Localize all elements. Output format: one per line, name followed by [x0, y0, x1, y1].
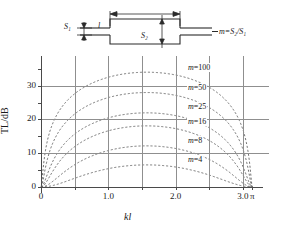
gridline-vertical — [75, 56, 76, 187]
y-tick-label: 20 — [14, 113, 36, 123]
curve-label-50: m=50 — [187, 83, 207, 92]
tl-curve-100 — [41, 72, 252, 187]
tl-curve-8 — [41, 146, 252, 187]
curve-label-100: m=100 — [187, 63, 211, 72]
y-tick-mark — [38, 86, 42, 87]
x-tick-label: π — [237, 191, 267, 201]
y-tick-mark — [38, 119, 42, 120]
y-tick-label: 10 — [14, 147, 36, 157]
gridline-vertical — [243, 56, 244, 187]
y-tick-mark — [38, 69, 42, 70]
y-axis-title: TL/dB — [0, 107, 10, 134]
y-tick-mark — [38, 153, 42, 154]
gridline-vertical — [176, 56, 177, 187]
gridline-horizontal — [41, 86, 269, 87]
y-tick-mark — [38, 103, 42, 104]
x-tick-mark — [176, 187, 177, 190]
y-tick-label: 0 — [14, 181, 36, 191]
dimension-inlet-area — [77, 22, 92, 41]
x-tick-label: 0 — [26, 191, 56, 201]
x-tick-mark — [142, 187, 143, 190]
gridline-vertical — [142, 56, 143, 187]
x-tick-label: 1.0 — [93, 191, 123, 201]
dimension-chamber-area — [160, 15, 165, 48]
figure-root: l S₁ S₂ m=S₂/S₁ TL/dB kl 01.02.03.0π0102… — [0, 0, 288, 227]
gridline-horizontal — [41, 153, 269, 154]
curve-label-4: m=4 — [187, 155, 203, 164]
curve-label-16: m=16 — [187, 117, 207, 126]
gridline-horizontal — [41, 119, 269, 120]
curve-label-8: m=8 — [187, 136, 203, 145]
y-tick-mark — [38, 136, 42, 137]
expansion-chamber-schematic: l S₁ S₂ m=S₂/S₁ — [62, 4, 252, 56]
x-tick-mark — [243, 187, 244, 190]
chamber-area-label: S₂ — [141, 31, 148, 40]
curve-label-25: m=25 — [187, 102, 207, 111]
y-tick-label: 30 — [14, 80, 36, 90]
x-tick-label: 2.0 — [161, 191, 191, 201]
length-dimension-label: l — [98, 21, 100, 30]
plot-area: 01.02.03.0π0102030 m=100m=50m=25m=16m=8m… — [41, 62, 248, 187]
area-ratio-formula: m=S₂/S₁ — [219, 27, 246, 36]
x-tick-mark — [108, 187, 109, 190]
y-tick-mark — [38, 170, 42, 171]
gridline-vertical — [108, 56, 109, 187]
x-tick-mark — [209, 187, 210, 190]
inlet-area-label: S₁ — [64, 22, 71, 31]
tl-curve-50 — [41, 93, 252, 187]
tl-curve-25 — [41, 113, 252, 187]
tl-curve-16 — [41, 126, 252, 187]
gridline-vertical — [209, 56, 210, 187]
x-tick-mark — [252, 187, 253, 190]
tl-curve-4 — [41, 165, 252, 187]
x-axis-title: kl — [124, 211, 131, 222]
transmission-loss-chart: TL/dB kl 01.02.03.0π0102030 m=100m=50m=2… — [0, 56, 288, 227]
y-tick-mark — [38, 187, 42, 188]
x-tick-mark — [75, 187, 76, 190]
